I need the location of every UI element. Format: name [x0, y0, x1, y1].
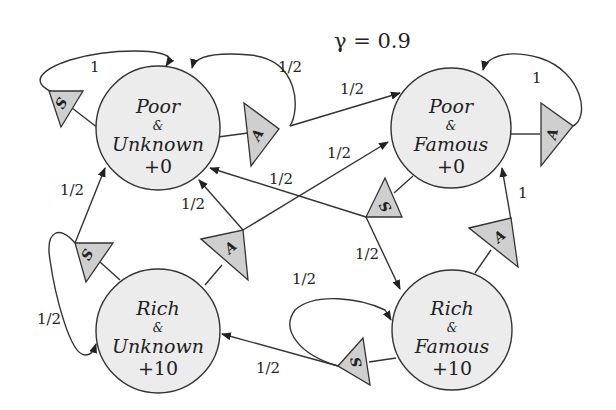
state-reward: +0	[437, 155, 465, 177]
state-name-line2: Unknown	[112, 335, 204, 357]
mdp-diagram: γ = 0.9	[0, 0, 616, 410]
action-node-ru-save: S	[75, 243, 113, 282]
state-name-line2: Famous	[414, 335, 490, 357]
edge-ru-a-pu	[199, 180, 243, 230]
prob-pf-s-rf: 1/2	[355, 245, 379, 263]
state-rich-famous: Rich & Famous +10	[392, 270, 512, 390]
state-amp: &	[446, 119, 457, 133]
edge-ru-s-pu	[75, 168, 105, 243]
action-node-pf-save: S	[366, 178, 402, 217]
state-poor-famous: Poor & Famous +0	[391, 68, 511, 188]
state-amp: &	[447, 321, 458, 335]
state-amp: &	[153, 321, 164, 335]
state-reward: +10	[138, 357, 178, 379]
state-reward: +10	[432, 357, 472, 379]
prob-ru-a-pu: 1/2	[181, 195, 205, 213]
action-node-ru-advertise: A	[201, 230, 248, 280]
action-node-rf-advertise: A	[469, 218, 518, 267]
state-name-line1: Rich	[429, 297, 473, 319]
prob-pf-a-pf: 1	[532, 69, 542, 87]
state-amp: &	[153, 119, 164, 133]
action-node-rf-save: S	[338, 338, 370, 385]
prob-pu-s-pu: 1	[90, 58, 100, 76]
prob-pf-s-pu: 1/2	[269, 170, 293, 188]
state-name-line2: Unknown	[112, 133, 204, 155]
prob-ru-s-pu: 1/2	[60, 181, 84, 199]
state-reward: +0	[144, 155, 172, 177]
state-poor-unknown: Poor & Unknown +0	[96, 66, 220, 190]
prob-rf-s-ru: 1/2	[256, 359, 280, 377]
prob-pu-a-pu: 1/2	[278, 58, 302, 76]
state-rich-unknown: Rich & Unknown +10	[96, 269, 220, 393]
edge-rf-s-rf	[290, 299, 391, 366]
prob-rf-s-rf: 1/2	[292, 270, 316, 288]
state-name-line1: Poor	[135, 95, 182, 117]
prob-pu-a-pf: 1/2	[340, 80, 364, 98]
action-node-pu-advertise: A	[244, 103, 279, 166]
prob-ru-a-pf: 1/2	[327, 144, 351, 162]
prob-rf-a-pf: 1	[518, 184, 528, 202]
state-name-line1: Poor	[428, 95, 475, 117]
edge-rf-a-pf	[502, 168, 511, 220]
state-name-line1: Rich	[135, 297, 179, 319]
action-node-pu-save: S	[49, 91, 83, 127]
state-name-line2: Famous	[413, 133, 489, 155]
prob-ru-s-ru: 1/2	[37, 310, 61, 328]
discount-factor-label: γ = 0.9	[334, 29, 411, 53]
action-node-pf-advertise: A	[541, 103, 573, 166]
